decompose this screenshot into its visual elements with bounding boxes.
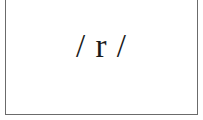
phoneme-label: / r / — [6, 27, 197, 65]
phoneme-card: / r / — [5, 0, 198, 115]
